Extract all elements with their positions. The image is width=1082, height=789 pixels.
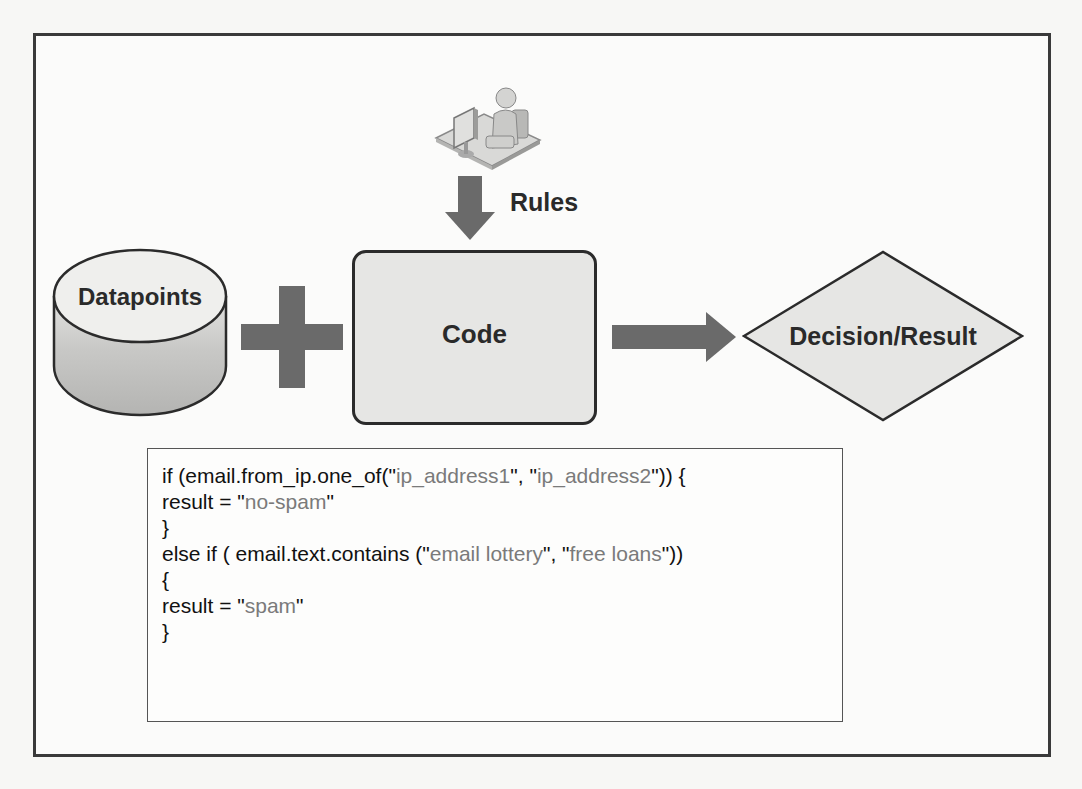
code-token: ")) {: [651, 464, 685, 487]
code-string: email lottery: [430, 542, 543, 565]
code-line: else if ( email.text.contains ("email lo…: [162, 541, 842, 567]
code-token: {: [162, 568, 169, 591]
code-node: Code: [352, 250, 597, 425]
code-line: result = "spam": [162, 593, 842, 619]
code-token: if (email.from_ip.one_of(": [162, 464, 396, 487]
code-line: {: [162, 567, 842, 593]
code-token: }: [162, 620, 169, 643]
code-token: result = ": [162, 490, 245, 513]
code-string: spam: [245, 594, 296, 617]
code-token: ": [326, 490, 333, 513]
code-token: ": [296, 594, 303, 617]
datapoints-cylinder: [52, 248, 230, 418]
decision-label: Decision/Result: [752, 322, 1014, 351]
plus-icon: [241, 286, 343, 388]
arrow-right-icon: [612, 312, 736, 364]
arrow-down-icon: [445, 176, 495, 242]
code-lines: if (email.from_ip.one_of("ip_address1", …: [162, 463, 842, 645]
code-string: free loans: [570, 542, 662, 565]
code-string: ip_address2: [537, 464, 651, 487]
code-token: ")): [662, 542, 683, 565]
code-line: }: [162, 619, 842, 645]
rules-label: Rules: [510, 188, 578, 217]
code-line: if (email.from_ip.one_of("ip_address1", …: [162, 463, 842, 489]
code-snippet-box: if (email.from_ip.one_of("ip_address1", …: [147, 448, 843, 722]
code-string: ip_address1: [396, 464, 510, 487]
datapoints-label: Datapoints: [62, 283, 218, 311]
code-line: result = "no-spam": [162, 489, 842, 515]
code-string: no-spam: [245, 490, 327, 513]
code-token: ", ": [510, 464, 537, 487]
user-at-computer-icon: [432, 80, 548, 180]
code-line: }: [162, 515, 842, 541]
code-label: Code: [355, 319, 594, 350]
code-token: }: [162, 516, 169, 539]
code-token: result = ": [162, 594, 245, 617]
code-token: else if ( email.text.contains (": [162, 542, 430, 565]
code-token: ", ": [543, 542, 570, 565]
